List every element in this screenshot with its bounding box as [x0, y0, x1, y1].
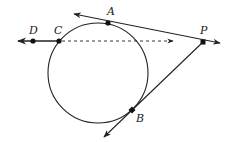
geometry-diagram: A B C D P — [0, 0, 232, 142]
point-c — [56, 38, 61, 43]
point-a — [105, 20, 110, 25]
tangent-line-pb — [104, 42, 203, 137]
point-d — [30, 38, 35, 43]
label-b: B — [135, 112, 144, 125]
label-c: C — [54, 24, 63, 37]
tangent-line-pa — [74, 14, 220, 43]
label-a: A — [106, 5, 115, 18]
point-p — [201, 40, 206, 45]
label-d: D — [28, 24, 38, 37]
diagram-canvas: A B C D P — [0, 0, 232, 142]
label-p: P — [199, 24, 208, 37]
